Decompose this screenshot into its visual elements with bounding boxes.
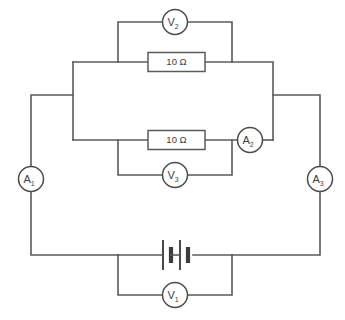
wire-v1-right-branch: [187, 255, 232, 295]
wire-outer-left-upper: [31, 95, 73, 168]
circuit-schematic-svg: 10 Ω 10 Ω V2 V3 V1 A1 A2: [0, 0, 345, 320]
wire-v1-left-branch: [118, 255, 163, 295]
ammeter-a1-subscript: 1: [31, 179, 35, 186]
wire-inner-top-right: [205, 62, 273, 140]
ammeter-a3-subscript: 3: [320, 179, 324, 186]
voltmeter-v2-subscript: 2: [175, 22, 179, 29]
wire-outer-right-lower: [232, 190, 320, 255]
resistor-top-label: 10 Ω: [166, 56, 186, 67]
circuit-diagram: 10 Ω 10 Ω V2 V3 V1 A1 A2: [0, 0, 345, 320]
ammeter-a2-subscript: 2: [250, 140, 254, 147]
resistor-bottom-label: 10 Ω: [166, 134, 186, 145]
voltmeter-v1-subscript: 1: [175, 295, 179, 302]
wire-outer-right-upper: [273, 95, 320, 168]
wire-outer-left-lower: [31, 190, 118, 255]
voltmeter-v3-subscript: 3: [175, 175, 179, 182]
